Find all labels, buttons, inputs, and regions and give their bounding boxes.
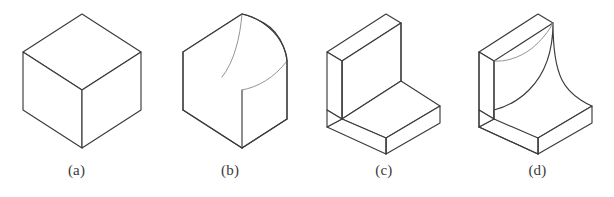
lbracket-backplate-left-face [327, 52, 342, 119]
caption-c: (c) [307, 161, 460, 179]
caption-a: (a) [0, 161, 153, 179]
drawing-l-bracket [307, 0, 460, 160]
drawing-cube [0, 0, 153, 160]
figure-panel-a: (a) [0, 0, 153, 197]
drawing-l-bracket-fillet [461, 0, 614, 160]
figure-panel-c: (c) [307, 0, 460, 197]
fillet-backplate-left-face [479, 52, 494, 119]
figure-panel-b: (b) [154, 0, 307, 197]
figure-panel-row: (a) [0, 0, 614, 197]
figure-panel-d: (d) [461, 0, 614, 197]
figure-plate: (a) [0, 0, 614, 197]
drawing-cube-rounded [154, 0, 307, 160]
caption-d: (d) [461, 161, 614, 179]
fillet-backplate-top-face [479, 14, 553, 61]
caption-b: (b) [154, 161, 307, 179]
